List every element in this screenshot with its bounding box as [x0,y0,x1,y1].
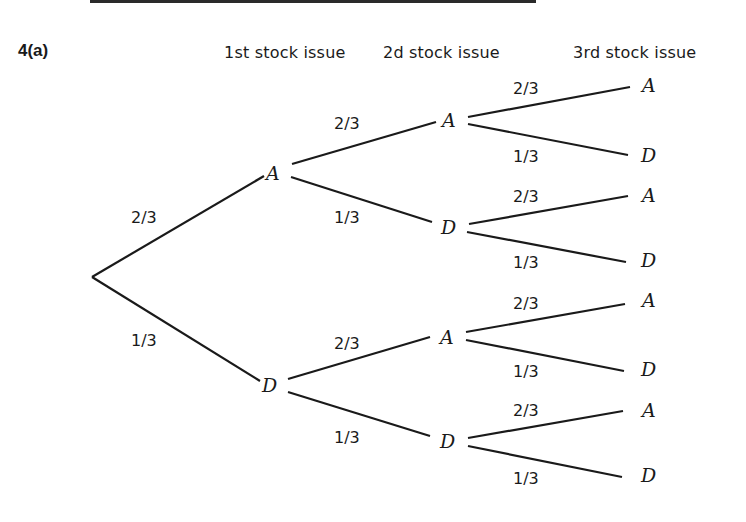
edge-AD-D [467,232,626,262]
prob-D-A: 2/3 [334,334,360,353]
node-3-DAD: D [640,358,656,380]
node-3-DDA: A [640,399,656,421]
edge-DD-A [468,411,623,438]
edge-DA-A [466,304,625,332]
prob-DA-A: 2/3 [513,294,539,313]
prob-root-D: 1/3 [131,331,157,350]
prob-DD-A: 2/3 [513,401,539,420]
probability-tree: A D 2/3 1/3 A D A D 2/3 1/3 2/3 1/3 A D … [0,0,746,522]
edge-A-D [291,177,432,222]
edge-root-D [92,277,260,381]
prob-A-D: 1/3 [334,208,360,227]
prob-AD-D: 1/3 [513,253,539,272]
prob-AA-A: 2/3 [513,79,539,98]
edge-DD-D [468,446,622,477]
edge-A-A [292,122,436,164]
edge-root-A [92,176,264,277]
node-3-AAD: D [640,144,656,166]
prob-DA-D: 1/3 [513,362,539,381]
edge-AD-A [469,196,628,224]
node-1-D: D [261,374,277,396]
node-3-ADD: D [640,249,656,271]
prob-AD-A: 2/3 [513,187,539,206]
edge-AA-D [468,124,628,155]
node-1-A: A [264,162,280,184]
node-3-ADA: A [640,184,656,206]
node-3-AAA: A [640,74,656,96]
edge-AA-A [468,87,630,117]
prob-D-D: 1/3 [334,428,360,447]
prob-DD-D: 1/3 [513,469,539,488]
node-2-DA: A [438,326,454,348]
node-3-DAA: A [640,289,656,311]
node-3-DDD: D [640,464,656,486]
edge-DA-D [466,340,624,371]
prob-AA-D: 1/3 [513,147,539,166]
node-2-DD: D [439,430,455,452]
node-2-AD: D [440,216,456,238]
prob-root-A: 2/3 [131,208,157,227]
node-2-AA: A [440,109,456,131]
prob-A-A: 2/3 [334,114,360,133]
